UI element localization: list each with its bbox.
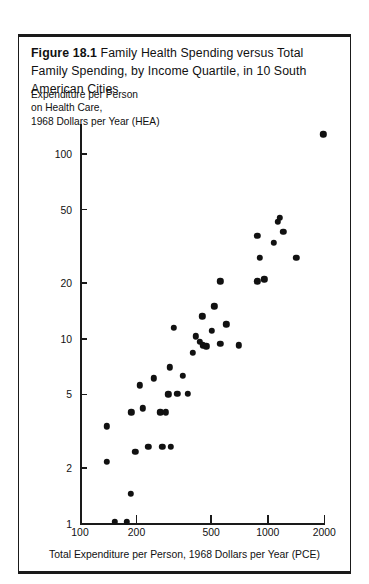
data-point: [132, 448, 138, 454]
scatter-plot: 125102050100 10020050010002000: [0, 0, 369, 584]
x-axis-label: Total Expenditure per Person, 1968 Dolla…: [18, 549, 351, 560]
data-point: [261, 276, 267, 282]
data-point: [104, 423, 110, 429]
y-tick-50: [80, 209, 87, 211]
y-tick-20: [80, 282, 87, 284]
data-point: [320, 131, 326, 137]
figure-container: Figure 18.1 Family Health Spending versu…: [0, 0, 369, 584]
data-point: [151, 375, 157, 381]
data-point: [165, 391, 171, 397]
y-tick-1: [80, 523, 87, 525]
x-tick-label-2000: 2000: [294, 527, 354, 538]
y-tick-100: [80, 153, 87, 155]
data-point: [254, 233, 260, 239]
y-tick-label-10: 10: [26, 333, 72, 344]
data-point: [271, 240, 277, 246]
data-point: [145, 444, 151, 450]
data-point: [199, 313, 205, 319]
data-point: [159, 444, 165, 450]
data-point: [140, 405, 146, 411]
data-point: [128, 490, 134, 496]
data-point: [217, 278, 223, 284]
data-point: [166, 364, 172, 370]
data-point: [185, 390, 191, 396]
x-tick-2000: [324, 515, 326, 524]
y-tick-10: [80, 338, 87, 340]
y-tick-label-2: 2: [26, 462, 72, 473]
data-point: [170, 324, 176, 330]
y-tick-label-5: 5: [26, 389, 72, 400]
y-tick-label-20: 20: [26, 278, 72, 289]
y-axis-line: [80, 124, 82, 525]
data-point: [223, 321, 229, 327]
data-point: [277, 215, 283, 221]
data-point: [209, 328, 215, 334]
x-tick-500: [210, 515, 212, 524]
y-tick-label-100: 100: [26, 149, 72, 160]
data-point: [162, 409, 168, 415]
data-point: [128, 409, 134, 415]
y-tick-5: [80, 394, 87, 396]
x-tick-label-1000: 1000: [238, 527, 298, 538]
x-tick-1000: [267, 515, 269, 524]
data-point: [104, 459, 110, 465]
data-point: [217, 341, 223, 347]
data-point: [254, 278, 260, 284]
data-point: [189, 350, 195, 356]
data-point: [293, 254, 299, 260]
data-point: [137, 382, 143, 388]
data-point: [280, 228, 286, 234]
y-tick-label-50: 50: [26, 204, 72, 215]
x-tick-label-500: 500: [181, 527, 241, 538]
data-point: [211, 303, 217, 309]
data-point: [174, 390, 180, 396]
data-point: [235, 342, 241, 348]
x-tick-200: [136, 515, 138, 524]
data-point: [168, 444, 174, 450]
x-tick-label-100: 100: [50, 527, 110, 538]
y-tick-2: [80, 467, 87, 469]
x-tick-label-200: 200: [107, 527, 167, 538]
data-point: [256, 254, 262, 260]
data-point: [203, 343, 209, 349]
data-point: [179, 373, 185, 379]
